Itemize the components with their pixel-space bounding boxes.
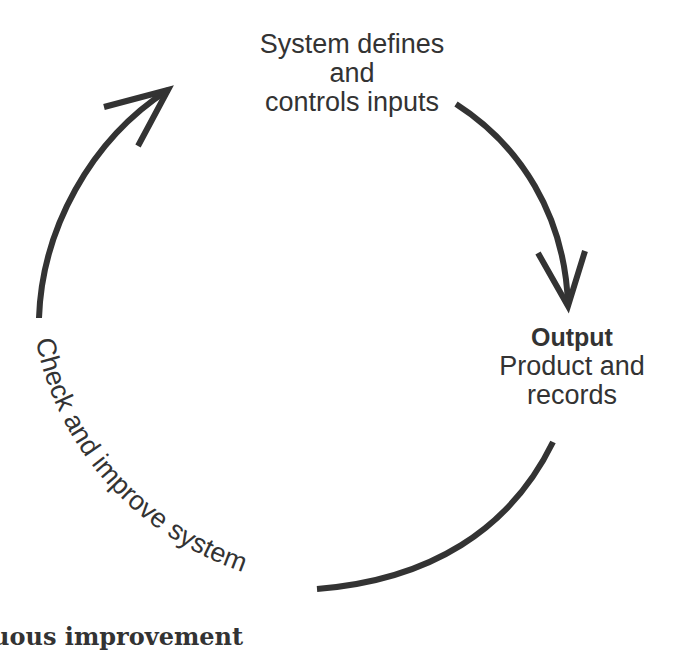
figure-caption: uous improvement [0,622,243,651]
node-inputs-line: controls inputs [222,88,482,117]
node-inputs-line: System defines [222,30,482,59]
arrow-inputs-to-output [456,104,585,306]
check-label: Check and improve system [30,335,251,578]
node-output-line: Product and [462,352,682,381]
node-inputs: System defines and controls inputs [222,30,482,117]
node-output: Output Product and records [462,323,682,410]
node-output-line: records [462,381,682,410]
node-inputs-line: and [222,59,482,88]
node-output-title: Output [462,323,682,352]
continuous-improvement-diagram: Check and improve system System defines … [0,0,687,658]
arrow-check-to-inputs [39,90,168,318]
arc-output-to-check [317,442,553,589]
